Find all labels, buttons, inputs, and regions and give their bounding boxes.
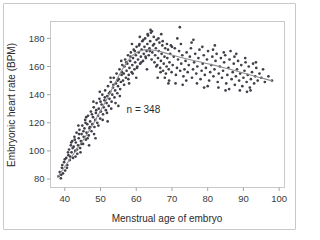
data-point — [199, 78, 202, 81]
data-point — [153, 61, 156, 64]
data-point — [180, 43, 183, 46]
data-point — [94, 137, 97, 140]
data-point — [120, 60, 123, 63]
data-point — [163, 55, 166, 58]
sample-size-annotation: n = 348 — [127, 104, 161, 115]
data-point — [118, 68, 121, 71]
data-point — [160, 33, 163, 36]
data-point — [160, 53, 163, 56]
data-point — [243, 69, 246, 72]
x-tick-label: 100 — [271, 193, 287, 204]
data-point — [185, 79, 188, 82]
data-point — [153, 43, 156, 46]
data-point — [116, 92, 119, 95]
y-axis: 80100120140160180 — [29, 33, 51, 185]
data-point — [256, 79, 259, 82]
data-point — [151, 51, 154, 54]
data-point — [80, 133, 83, 136]
data-point — [242, 76, 245, 79]
data-point — [217, 72, 220, 75]
data-point — [132, 57, 135, 60]
data-point — [212, 48, 215, 51]
data-point — [105, 109, 108, 112]
data-point — [238, 89, 241, 92]
x-tick-label: 40 — [60, 193, 71, 204]
data-point — [71, 147, 74, 150]
data-point — [251, 71, 254, 74]
data-point — [255, 67, 258, 70]
x-tick-label: 50 — [95, 193, 106, 204]
data-point — [152, 36, 155, 39]
data-point — [167, 68, 170, 71]
data-point — [140, 55, 143, 58]
data-point — [238, 79, 241, 82]
data-point — [159, 71, 162, 74]
data-point — [206, 58, 209, 61]
data-point — [197, 57, 200, 60]
data-point — [90, 110, 93, 113]
data-point — [127, 74, 130, 77]
y-tick-label: 120 — [29, 117, 45, 128]
data-point — [124, 58, 127, 61]
data-point — [240, 64, 243, 67]
data-point — [110, 107, 113, 110]
data-point — [150, 58, 153, 61]
data-point — [178, 26, 181, 29]
data-point — [142, 53, 145, 56]
data-point — [196, 82, 199, 85]
data-point — [96, 121, 99, 124]
data-point — [86, 137, 89, 140]
data-point — [224, 89, 227, 92]
data-point — [233, 83, 236, 86]
data-point — [170, 71, 173, 74]
data-point — [194, 53, 197, 56]
data-point — [250, 78, 253, 81]
data-point — [186, 71, 189, 74]
data-point — [81, 124, 84, 127]
data-point — [180, 62, 183, 65]
data-point — [79, 147, 82, 150]
data-point — [138, 36, 141, 39]
data-point — [213, 44, 216, 47]
data-point — [208, 79, 211, 82]
data-point — [110, 81, 113, 84]
data-point — [176, 67, 179, 70]
data-point — [163, 76, 166, 79]
data-point — [140, 61, 143, 64]
data-point — [213, 68, 216, 71]
data-point — [155, 47, 158, 50]
data-point — [187, 64, 190, 67]
data-point — [130, 51, 133, 54]
data-point — [125, 69, 128, 72]
data-point — [127, 54, 130, 57]
data-point — [82, 130, 85, 133]
data-point — [97, 124, 100, 127]
data-point — [229, 50, 232, 53]
data-point — [97, 107, 100, 110]
data-point — [107, 105, 110, 108]
data-point — [175, 74, 178, 77]
y-tick-label: 180 — [29, 33, 45, 44]
data-point — [133, 68, 136, 71]
data-point — [171, 64, 174, 67]
data-point — [157, 37, 160, 40]
data-point — [117, 105, 120, 108]
y-tick-label: 100 — [29, 145, 45, 156]
data-point — [75, 141, 78, 144]
data-point — [136, 67, 139, 70]
data-point — [226, 74, 229, 77]
x-axis: 405060708090100 — [60, 188, 288, 204]
data-point — [159, 67, 162, 70]
data-point — [142, 38, 145, 41]
data-point — [78, 128, 81, 131]
data-point — [224, 54, 227, 57]
data-point — [221, 76, 224, 79]
data-point — [246, 90, 249, 93]
data-point — [75, 131, 78, 134]
data-point — [93, 126, 96, 129]
data-point — [109, 76, 112, 79]
data-point — [241, 85, 244, 88]
data-point — [125, 76, 128, 79]
data-point — [108, 98, 111, 101]
data-point — [191, 76, 194, 79]
